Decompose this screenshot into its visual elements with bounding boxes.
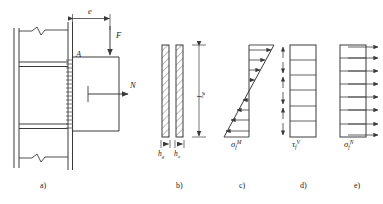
panel-label-c: c) xyxy=(239,181,245,190)
label-weld-length: lw xyxy=(196,92,207,98)
engineering-diagram xyxy=(0,0,383,204)
axial-arrows xyxy=(348,47,378,135)
weld-throat-right xyxy=(176,45,183,137)
throat-dimensions xyxy=(161,140,184,148)
throat-right-subscript: o xyxy=(178,154,181,159)
break-symbol-bottom xyxy=(19,154,68,162)
break-symbol-top xyxy=(19,27,68,35)
panel-c-group xyxy=(224,45,274,137)
throat-left-subscript: g xyxy=(162,154,165,159)
shear-block xyxy=(290,45,316,137)
label-force-N: N xyxy=(130,80,136,90)
panel-label-e: e) xyxy=(354,181,360,190)
label-point-A: A xyxy=(76,49,81,59)
label-throat-right: ho xyxy=(174,150,180,159)
panel-a-group xyxy=(14,14,128,170)
axial-block xyxy=(340,45,366,137)
label-throat-left: hg xyxy=(158,150,164,159)
bending-stress-superscript: M xyxy=(237,139,242,145)
shear-divider-lines xyxy=(290,60,316,121)
axial-divider-lines xyxy=(340,58,366,124)
weld-throat-left xyxy=(162,45,169,137)
shear-stress-superscript: V xyxy=(297,139,300,145)
weld-hatch-ticks xyxy=(66,60,73,128)
label-shear-stress: τfV xyxy=(292,140,300,151)
panel-label-b: b) xyxy=(176,181,183,190)
panel-label-d: d) xyxy=(300,181,307,190)
weld-length-subscript: w xyxy=(200,92,206,96)
bending-arrows-upper xyxy=(249,50,271,80)
label-force-F: F xyxy=(116,30,121,40)
figure-canvas: e F N A lw hg ho σfM τfV σfN a) b) c) d)… xyxy=(0,0,383,204)
label-bending-stress: σfM xyxy=(231,140,241,151)
panel-d-group xyxy=(283,45,316,137)
panel-label-a: a) xyxy=(40,181,46,190)
label-axial-stress: σfN xyxy=(344,140,354,151)
panel-e-group xyxy=(340,45,378,137)
axial-stress-superscript: N xyxy=(350,139,354,145)
label-eccentricity-e: e xyxy=(88,6,92,16)
